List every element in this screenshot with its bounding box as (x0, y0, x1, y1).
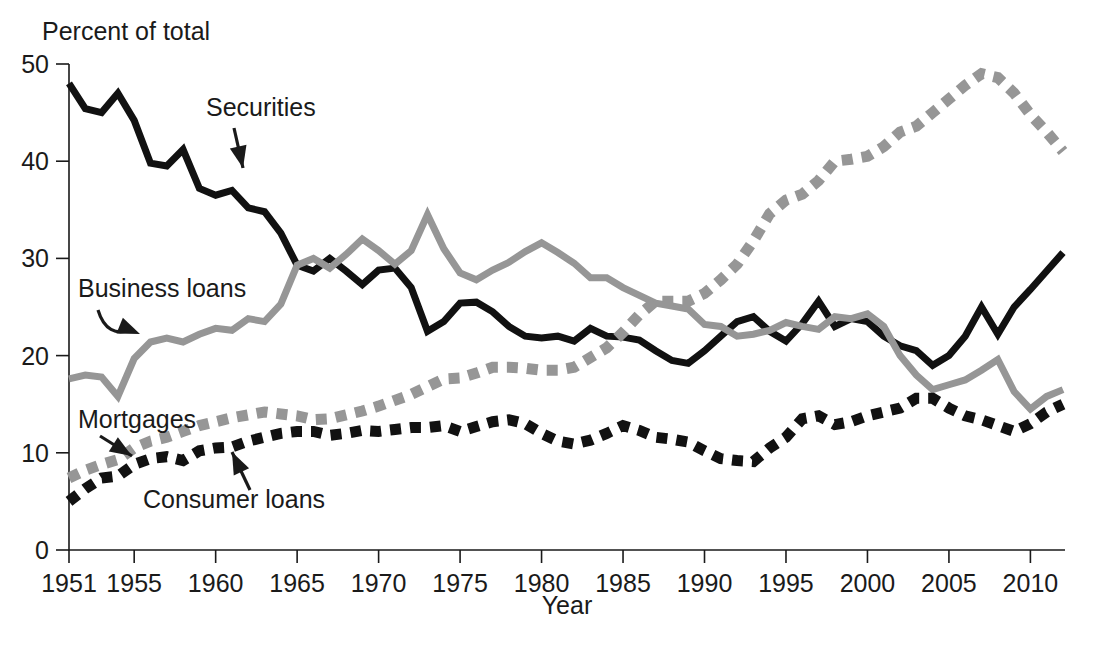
axis-lines (69, 64, 1065, 550)
y-tick-label: 10 (21, 439, 49, 467)
x-tick-label: 1965 (269, 569, 325, 597)
x-tick-label: 2000 (840, 569, 896, 597)
annotation-arrow-head (116, 318, 140, 334)
x-tick-label: 1975 (432, 569, 488, 597)
line-chart-svg: 0102030405019511955196019651970197519801… (0, 0, 1105, 645)
x-tick-label: 2010 (1003, 569, 1059, 597)
x-tick-label: 1951 (41, 569, 97, 597)
x-tick-label: 1990 (677, 569, 733, 597)
y-tick-label: 40 (21, 147, 49, 175)
annotation-label-consumer-loans: Consumer loans (143, 485, 325, 513)
annotation-label-mortgages: Mortgages (78, 405, 196, 433)
x-tick-label: 1995 (758, 569, 814, 597)
y-axis-title: Percent of total (42, 17, 210, 45)
x-tick-label: 1960 (188, 569, 244, 597)
y-tick-label: 30 (21, 244, 49, 272)
axes: 0102030405019511955196019651970197519801… (21, 50, 1065, 597)
x-tick-label: 2005 (921, 569, 977, 597)
y-tick-label: 0 (35, 536, 49, 564)
y-tick-label: 50 (21, 50, 49, 78)
annotation-label-securities: Securities (206, 93, 316, 121)
y-tick-label: 20 (21, 342, 49, 370)
x-axis-title: Year (542, 591, 593, 619)
chart-figure: 0102030405019511955196019651970197519801… (0, 0, 1105, 645)
x-tick-label: 1955 (106, 569, 162, 597)
x-tick-label: 1970 (351, 569, 407, 597)
x-tick-label: 1985 (595, 569, 651, 597)
annotation-arrow-head (232, 452, 249, 476)
series-line-business-loans (69, 215, 1063, 409)
annotation-arrow-head (230, 145, 247, 168)
annotation-label-business-loans: Business loans (78, 274, 246, 302)
